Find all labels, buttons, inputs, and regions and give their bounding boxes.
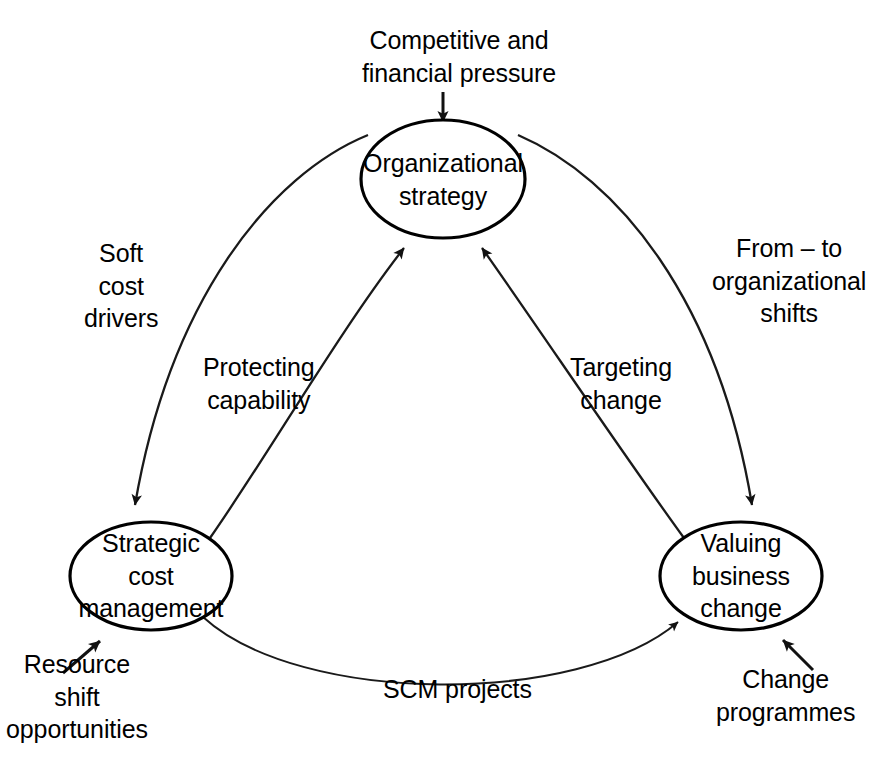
node-label-line: change [692,592,790,625]
edge-label-line: organizational [712,265,866,298]
edge-label-scm-projects: SCM projects [383,673,532,706]
edge-label-line: capability [203,384,315,417]
external-label-competitive-financial-pressure: Competitive and financial pressure [362,24,556,89]
edge-label-line: change [570,384,672,417]
node-label-line: cost [79,560,224,593]
edge-label-targeting-change: Targeting change [570,351,672,416]
external-label-line: shift [6,681,148,714]
node-label-line: Valuing [692,527,790,560]
external-label-line: Resource [6,648,148,681]
node-label-organizational-strategy: Organizational strategy [363,147,523,212]
node-label-valuing-business-change: Valuing business change [692,527,790,625]
diagram-canvas-container: Organizational strategy Strategic cost m… [0,0,886,763]
edge-label-line: cost [84,270,158,303]
external-label-line: Change [716,663,855,696]
external-label-change-programmes: Change programmes [716,663,855,728]
external-label-line: Competitive and [362,24,556,57]
edge-soft-cost-drivers-path [135,135,368,505]
edge-label-line: From – to [712,232,866,265]
edge-label-from-to-organizational-shifts: From – to organizational shifts [712,232,866,330]
edge-label-line: drivers [84,302,158,335]
node-label-line: management [79,592,224,625]
external-label-line: programmes [716,696,855,729]
edge-label-line: Soft [84,237,158,270]
edge-label-line: SCM projects [383,673,532,706]
node-label-line: Organizational [363,147,523,180]
edge-label-line: Protecting [203,351,315,384]
node-label-line: business [692,560,790,593]
edge-label-protecting-capability: Protecting capability [203,351,315,416]
node-label-strategic-cost-management: Strategic cost management [79,527,224,625]
external-label-resource-shift-opportunities: Resource shift opportunities [6,648,148,746]
edge-label-soft-cost-drivers: Soft cost drivers [84,237,158,335]
external-label-line: financial pressure [362,57,556,90]
edge-label-line: Targeting [570,351,672,384]
node-label-line: strategy [363,179,523,212]
external-label-line: opportunities [6,713,148,746]
node-label-line: Strategic [79,527,224,560]
edge-label-line: shifts [712,297,866,330]
